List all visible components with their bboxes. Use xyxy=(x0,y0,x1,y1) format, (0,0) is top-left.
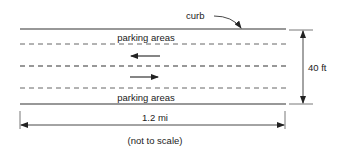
top-parking-label: parking areas xyxy=(117,32,175,43)
width-dimension-label: 40 ft xyxy=(308,62,327,73)
scale-note: (not to scale) xyxy=(128,135,183,146)
bottom-parking-label: parking areas xyxy=(117,92,175,103)
curb-label: curb xyxy=(186,10,204,21)
street-diagram: parking areas parking areas curb 40 ft 1… xyxy=(0,0,345,153)
length-dimension-label: 1.2 mi xyxy=(142,112,168,123)
curb-leader-arrow-icon xyxy=(214,16,241,28)
